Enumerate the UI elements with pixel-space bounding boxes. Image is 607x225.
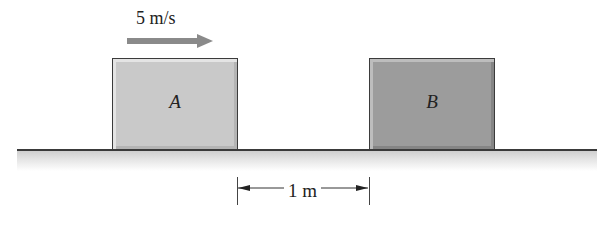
velocity-arrow-icon	[127, 34, 217, 48]
block-a: A	[112, 58, 238, 150]
ground-line	[17, 149, 597, 151]
block-a-label: A	[113, 91, 237, 113]
ground-shading	[17, 151, 597, 171]
distance-label: 1 m	[284, 180, 321, 202]
block-b: B	[369, 58, 495, 150]
velocity-label: 5 m/s	[136, 8, 176, 29]
block-b-label: B	[370, 91, 494, 113]
